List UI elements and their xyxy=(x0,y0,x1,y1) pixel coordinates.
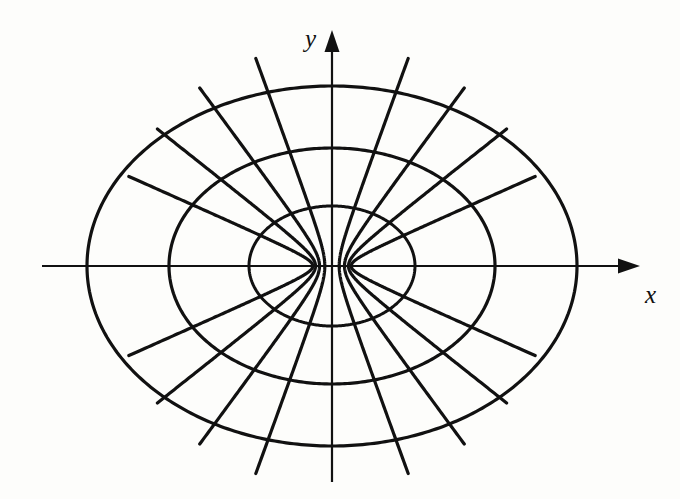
x-axis-arrowhead xyxy=(618,259,640,274)
y-axis-arrowhead xyxy=(325,30,340,52)
conics-canvas xyxy=(0,0,680,499)
y-axis-label: y xyxy=(305,26,316,51)
conics-figure: y x xyxy=(0,0,680,499)
x-axis-label: x xyxy=(645,282,656,307)
